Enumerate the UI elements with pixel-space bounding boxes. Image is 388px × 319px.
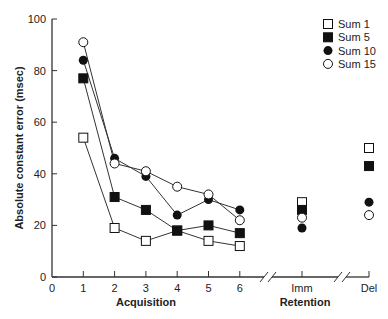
data-point-open-circle — [204, 190, 213, 199]
data-point-filled-circle — [365, 198, 374, 207]
data-point-open-circle — [235, 216, 244, 225]
x-tick-label: 3 — [143, 282, 149, 294]
y-tick-label: 40 — [34, 168, 46, 180]
data-point-filled-square — [141, 205, 150, 214]
data-point-open-square — [110, 223, 119, 232]
legend-label: Sum 15 — [338, 58, 376, 70]
x-tick-label: 0 — [49, 282, 55, 294]
axes: 0204060801000123456ImmDel — [28, 13, 378, 294]
data-point-open-square — [204, 236, 213, 245]
data-point-filled-circle — [235, 205, 244, 214]
data-point-open-circle — [141, 167, 150, 176]
series-line — [83, 42, 240, 220]
x-tick-label: 1 — [80, 282, 86, 294]
data-point-open-circle — [173, 182, 182, 191]
data-point-open-circle — [110, 159, 119, 168]
legend-item: Sum 15 — [324, 58, 376, 70]
filled-circle-marker-icon — [324, 46, 333, 55]
open-square-marker-icon — [324, 20, 333, 29]
filled-square-marker-icon — [324, 33, 333, 42]
series-lines — [83, 42, 240, 246]
y-tick-label: 60 — [34, 116, 46, 128]
series-points — [79, 38, 374, 251]
data-point-filled-circle — [79, 56, 88, 65]
x-axis-title-retention: Retention — [280, 296, 331, 308]
data-point-open-circle — [79, 38, 88, 47]
y-tick-label: 0 — [40, 271, 46, 283]
y-tick-label: 20 — [34, 219, 46, 231]
legend-item: Sum 10 — [324, 45, 376, 57]
x-tick-label: Imm — [291, 282, 312, 294]
data-point-filled-circle — [298, 223, 307, 232]
data-point-open-square — [235, 242, 244, 251]
x-tick-label: 6 — [237, 282, 243, 294]
legend-item: Sum 5 — [324, 31, 370, 43]
x-tick-label: 4 — [174, 282, 180, 294]
y-axis-title: Absolute constant error (msec) — [13, 66, 25, 230]
data-point-open-square — [365, 144, 374, 153]
legend-label: Sum 1 — [338, 18, 370, 30]
legend-label: Sum 10 — [338, 45, 376, 57]
data-point-open-square — [79, 133, 88, 142]
data-point-filled-square — [365, 162, 374, 171]
data-point-filled-square — [235, 229, 244, 238]
data-point-open-circle — [365, 211, 374, 220]
series-line — [83, 138, 240, 246]
legend-item: Sum 1 — [324, 18, 370, 30]
data-point-filled-square — [173, 226, 182, 235]
data-point-filled-circle — [173, 211, 182, 220]
y-tick-label: 100 — [28, 13, 46, 25]
open-circle-marker-icon — [324, 59, 333, 68]
data-point-filled-square — [110, 193, 119, 202]
legend-label: Sum 5 — [338, 31, 370, 43]
x-tick-label: 5 — [205, 282, 211, 294]
legend: Sum 1Sum 5Sum 10Sum 15 — [324, 18, 376, 70]
series-line — [83, 78, 240, 233]
data-point-filled-square — [79, 74, 88, 83]
y-tick-label: 80 — [34, 65, 46, 77]
data-point-open-square — [141, 236, 150, 245]
data-point-open-circle — [298, 213, 307, 222]
x-tick-label: 2 — [112, 282, 118, 294]
series-line — [83, 60, 240, 215]
x-tick-label: Del — [361, 282, 378, 294]
x-axis-title-acquisition: Acquisition — [116, 296, 176, 308]
chart: 0204060801000123456ImmDel Sum 1Sum 5Sum … — [0, 0, 388, 319]
data-point-filled-square — [204, 221, 213, 230]
